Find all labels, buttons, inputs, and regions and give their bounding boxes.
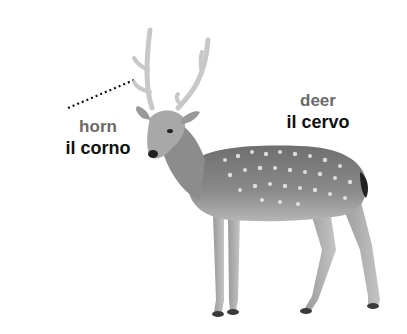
deer-label: deer il cervo [268, 92, 368, 131]
deer-body [188, 146, 366, 222]
horn-italian: il corno [48, 139, 148, 157]
antlers [134, 30, 208, 108]
horn-pointer-line [68, 80, 134, 108]
horn-english: horn [48, 118, 148, 135]
deer-italian: il cervo [268, 113, 368, 131]
deer-english: deer [268, 92, 368, 109]
deer-illustration [0, 0, 407, 334]
horn-label: horn il corno [48, 118, 148, 157]
